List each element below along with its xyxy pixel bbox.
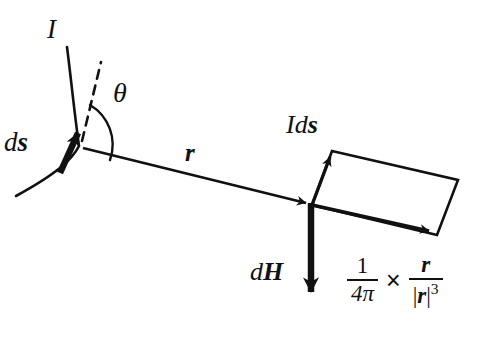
tangent-extension-dashed-line [82,62,101,141]
fraction-numerator-r: r [417,252,434,278]
label-dH-d: d [250,257,263,286]
biot-savart-diagram: I θ ds r Ids dH 1 4π × r |r|3 [0,0,502,353]
fraction-denominator-4pi: 4π [347,281,378,307]
wire-curve [16,47,79,196]
label-r-vector: r [185,140,195,165]
label-current-I: I [47,16,56,43]
fraction-one-over-four-pi: 1 4π [347,253,378,307]
fraction-numerator-1: 1 [353,253,373,279]
fraction-denominator-r-magnitude-cubed: |r|3 [409,280,443,309]
label-Ids: Ids [286,112,318,138]
label-Ids-d: d [295,110,308,139]
label-Ids-s: s [308,110,318,139]
fraction-r-over-r-cubed: r |r|3 [409,252,443,309]
r-direction-vector [312,205,429,231]
label-ds-d: d [4,127,18,157]
label-angle-theta: θ [113,79,127,107]
biot-savart-formula: 1 4π × r |r|3 [347,252,443,309]
abs-vector-r: r [417,283,426,308]
label-ds-s: s [18,127,29,157]
exponent-3: 3 [431,280,439,297]
label-dH-H: H [263,257,283,286]
label-dH: dH [250,259,283,285]
label-ds: ds [4,129,28,156]
Ids-current-element-vector [312,157,330,205]
cross-product-operator: × [385,266,402,295]
label-Ids-I: I [286,110,295,139]
